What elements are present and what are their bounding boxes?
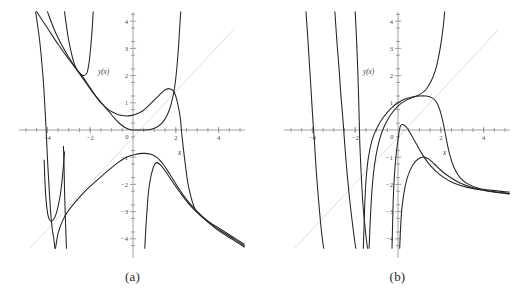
- y-tick-label: 1: [390, 99, 393, 106]
- y-tick-label: 2: [390, 72, 393, 79]
- curve-solution-lower-1: [392, 125, 509, 249]
- x-tick-label: 2: [174, 134, 177, 141]
- plot-svg-a: −4−2024−4−3−2−11234 y(x) x: [0, 0, 265, 291]
- diagonal-guide-b: [295, 30, 498, 248]
- y-tick-label: 4: [125, 18, 129, 25]
- panel-caption-b: (b): [265, 269, 530, 285]
- plot-svg-b: −4−2024−4−3−2−11234 y(x) x: [265, 0, 530, 291]
- plot-panel-a: −4−2024−4−3−2−11234 y(x) x (a): [0, 0, 265, 291]
- y-tick-label: 2: [125, 72, 128, 79]
- x-tick-label: 4: [482, 134, 486, 141]
- figure-root: −4−2024−4−3−2−11234 y(x) x (a) −4−2024−4…: [0, 0, 531, 291]
- x-tick-label: 2: [439, 134, 442, 141]
- diagonal-guide-a: [30, 30, 233, 248]
- y-tick-label: −2: [386, 181, 393, 188]
- plot-panel-b: −4−2024−4−3−2−11234 y(x) x (b): [265, 0, 530, 291]
- axes-b: [284, 12, 510, 258]
- axes-a: [19, 12, 245, 258]
- x-tick-label: −4: [309, 134, 317, 141]
- y-tick-label: 3: [125, 45, 129, 52]
- y-tick-label: −4: [121, 235, 129, 242]
- y-tick-label: 1: [125, 99, 128, 106]
- y-tick-label: −1: [386, 154, 393, 161]
- y-tick-label: 3: [390, 45, 394, 52]
- x-tick-label: −2: [352, 134, 359, 141]
- curve-solution-lower-2: [400, 157, 510, 248]
- y-tick-label: 4: [390, 18, 394, 25]
- y-axis-label-b: y(x): [362, 68, 375, 76]
- x-tick-label: 4: [217, 134, 221, 141]
- x-axis-label-a: x: [177, 149, 182, 157]
- curve-solution-8: [63, 146, 66, 248]
- x-tick-label: −4: [44, 134, 52, 141]
- panel-caption-a: (a): [0, 269, 265, 285]
- curve-solution-6: [145, 163, 245, 249]
- x-tick-label: −2: [87, 134, 94, 141]
- y-axis-label-a: y(x): [97, 68, 110, 76]
- curve-solution-3: [37, 12, 245, 245]
- x-tick-label: 0: [125, 133, 129, 140]
- y-tick-label: −3: [121, 208, 129, 215]
- curve-solution-5: [56, 153, 245, 248]
- curve-solution-2: [65, 12, 94, 76]
- x-axis-label-b: x: [442, 149, 447, 157]
- y-tick-label: −2: [121, 181, 128, 188]
- x-tick-label: 0: [390, 133, 394, 140]
